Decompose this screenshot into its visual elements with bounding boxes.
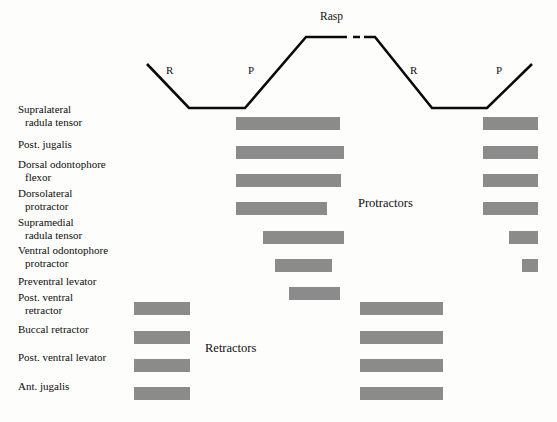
activity-bar-row1-2 xyxy=(483,117,538,130)
group-caption-retractors: Retractors xyxy=(205,341,256,356)
muscle-label-line2: retractor xyxy=(18,304,73,317)
muscle-label-line2: protractor xyxy=(18,200,72,213)
muscle-label-line1: Dorsal odontophore xyxy=(18,158,106,170)
muscle-label-7: Preventral levator xyxy=(18,275,97,288)
muscle-label-line2: flexor xyxy=(18,171,106,184)
phase-label-r-3: R xyxy=(410,64,417,76)
activity-bar-row2-1 xyxy=(236,146,344,159)
activity-bar-row3-1 xyxy=(236,174,341,187)
group-caption-protractors: Protractors xyxy=(358,196,413,211)
activity-bar-row11-2 xyxy=(360,387,443,400)
muscle-label-line1: Dorsolateral xyxy=(18,187,72,199)
muscle-label-line1: Supramedial xyxy=(18,216,74,228)
activity-bar-row8-2 xyxy=(360,302,443,315)
muscle-label-line1: Buccal retractor xyxy=(18,323,89,335)
activity-bar-row4-2 xyxy=(483,202,538,215)
activity-bar-row9-1 xyxy=(134,331,190,344)
activity-bar-row10-1 xyxy=(134,359,190,372)
muscle-label-line2: radula tensor xyxy=(18,116,82,129)
activity-bar-row5-2 xyxy=(509,231,538,244)
muscle-label-line1: Supralateral xyxy=(18,103,71,115)
muscle-label-line1: Post. ventral xyxy=(18,291,73,303)
muscle-label-line1: Post. ventral levator xyxy=(18,351,106,363)
feeding-cycle-trace xyxy=(0,0,557,120)
muscle-label-3: Dorsal odontophoreflexor xyxy=(18,158,106,184)
phase-label-p-4: P xyxy=(496,64,502,76)
muscle-label-1: Supralateralradula tensor xyxy=(18,103,82,129)
activity-bar-row10-2 xyxy=(360,359,443,372)
muscle-label-line2: radula tensor xyxy=(18,229,82,242)
activity-bar-row11-1 xyxy=(134,387,190,400)
muscle-label-5: Supramedialradula tensor xyxy=(18,216,82,242)
activity-bar-row4-1 xyxy=(236,202,327,215)
muscle-label-line1: Ventral odontophore xyxy=(18,244,108,256)
phase-label-p-2: P xyxy=(248,64,254,76)
activity-bar-row9-2 xyxy=(360,331,443,344)
activity-bar-row6-1 xyxy=(275,259,332,272)
activity-bar-row1-1 xyxy=(236,117,340,130)
activity-bar-row8-1 xyxy=(134,302,190,315)
activity-bar-row3-2 xyxy=(483,174,538,187)
trace-segment-left xyxy=(147,37,340,108)
muscle-label-line2: protractor xyxy=(18,257,108,270)
muscle-label-6: Ventral odontophoreprotractor xyxy=(18,244,108,270)
activity-bar-row7-1 xyxy=(289,287,340,300)
muscle-label-8: Post. ventralretractor xyxy=(18,291,73,317)
muscle-label-4: Dorsolateralprotractor xyxy=(18,187,72,213)
muscle-label-11: Ant. jugalis xyxy=(18,380,69,393)
phase-label-r-1: R xyxy=(166,64,173,76)
figure-canvas: Rasp RPRP Supralateralradula tensorPost.… xyxy=(0,0,557,422)
muscle-label-line1: Post. jugalis xyxy=(18,138,72,150)
activity-bar-row5-1 xyxy=(263,231,344,244)
muscle-label-10: Post. ventral levator xyxy=(18,351,106,364)
activity-bar-row6-2 xyxy=(522,259,538,272)
activity-bar-row2-2 xyxy=(483,146,538,159)
muscle-label-line1: Ant. jugalis xyxy=(18,380,69,392)
rasp-phase-label: Rasp xyxy=(320,10,343,22)
muscle-label-9: Buccal retractor xyxy=(18,323,89,336)
muscle-label-line1: Preventral levator xyxy=(18,275,97,287)
muscle-label-2: Post. jugalis xyxy=(18,138,72,151)
trace-segment-right xyxy=(364,37,532,108)
